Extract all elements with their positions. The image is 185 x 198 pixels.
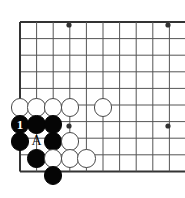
white-stone — [94, 98, 112, 116]
go-board-diagram: 1A — [0, 0, 185, 198]
star-point — [66, 123, 71, 128]
white-stone — [61, 98, 79, 116]
star-point — [165, 123, 170, 128]
black-stone — [44, 166, 62, 184]
grid-lines — [20, 22, 185, 171]
star-point — [165, 22, 170, 27]
white-stone — [61, 132, 79, 150]
black-stone — [44, 132, 62, 150]
star-point — [66, 22, 71, 27]
white-stone — [44, 98, 62, 116]
black-stone — [11, 132, 29, 150]
black-stone — [44, 115, 62, 133]
go-board-grid — [0, 0, 185, 198]
white-stone — [44, 149, 62, 167]
white-stone — [77, 149, 95, 167]
